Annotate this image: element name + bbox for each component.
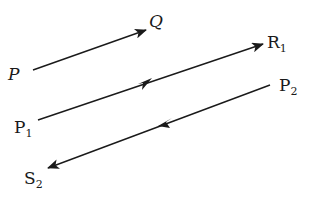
vector-p1-to-r1: P1 R1	[14, 32, 287, 140]
vector-line	[48, 85, 270, 168]
point-label-q: Q	[149, 11, 163, 31]
vector-p2-to-s2: P2 S2	[24, 75, 297, 191]
vector-p-to-q: P Q	[7, 11, 163, 84]
point-label-r1: R1	[267, 32, 287, 55]
mid-arrow-icon	[138, 78, 152, 90]
point-label-p: P	[7, 64, 20, 84]
point-label-p2: P2	[279, 75, 297, 98]
point-label-s2: S2	[24, 168, 43, 191]
vector-diagram: P Q P1 R1 P2 S2	[0, 0, 314, 204]
vector-line	[33, 30, 146, 70]
diagram-svg: P Q P1 R1 P2 S2	[0, 0, 314, 204]
point-label-p1: P1	[14, 117, 32, 140]
vector-line	[38, 44, 263, 120]
